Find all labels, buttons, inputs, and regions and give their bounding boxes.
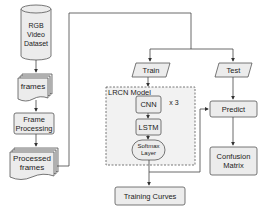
test-label: Test (215, 63, 252, 77)
confusion-matrix-label: Confusion Matrix (210, 147, 257, 175)
dataset-label-line-1: RGB (28, 21, 43, 30)
confusion-matrix-line-2: Matrix (223, 161, 243, 170)
dataset-label-line-2: Video (27, 30, 45, 39)
train-label: Train (132, 63, 170, 77)
softmax-line-2: Layer (141, 150, 156, 157)
processed-frames-label: Processed frames (10, 153, 54, 173)
frame-processing-label: Frame Processing (14, 113, 54, 134)
frame-processing-line-2: Processing (15, 124, 52, 133)
predict-label: Predict (210, 101, 257, 117)
cnn-label: CNN (136, 96, 161, 113)
confusion-matrix-line-1: Confusion (217, 152, 251, 161)
repeat-label: x 3 (166, 97, 182, 107)
processed-frames-line-1: Processed (13, 154, 51, 163)
training-curves-label: Training Curves (115, 187, 185, 205)
frame-processing-line-1: Frame (23, 115, 45, 124)
frames-label: frames (18, 79, 48, 94)
lstm-label: LSTM (136, 119, 161, 135)
dataset-label: RGB Video Dataset (20, 14, 52, 54)
softmax-line-1: Softmax (137, 143, 159, 150)
dataset-label-line-3: Dataset (24, 39, 48, 48)
processed-frames-line-2: frames (20, 163, 44, 172)
softmax-label: Softmax Layer (132, 140, 165, 160)
